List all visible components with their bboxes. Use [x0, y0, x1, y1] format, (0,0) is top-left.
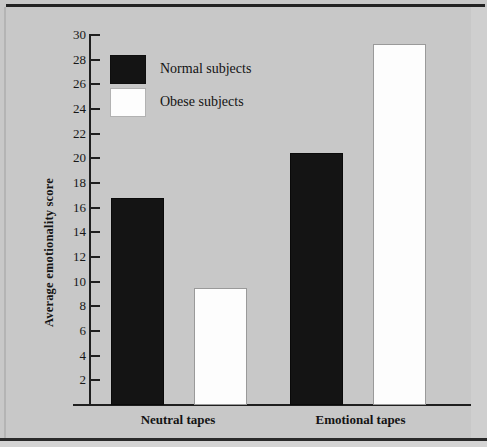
y-axis-tick: [91, 108, 100, 110]
y-axis-tick-label-text: 12: [64, 250, 86, 263]
y-axis-tick-label: 30: [60, 28, 86, 41]
y-axis-tick-label: 20: [60, 151, 86, 164]
y-axis-tick-label-text: 20: [64, 151, 86, 164]
bar-neutral-tapes-obese-subjects: [194, 288, 247, 405]
y-axis-tick: [91, 133, 100, 135]
y-axis-tick-label-text: 4: [64, 349, 86, 362]
y-axis-tick: [91, 256, 100, 258]
y-axis-tick-label: 10: [60, 275, 86, 288]
bar-chart: 24681012141618202224262830 Average emoti…: [0, 0, 487, 447]
y-axis-tick: [91, 157, 100, 159]
y-axis-tick-label-text: 10: [64, 275, 86, 288]
y-axis-tick: [91, 355, 100, 357]
legend-label-obese: Obese subjects: [160, 94, 244, 110]
y-axis-tick-label-text: 8: [64, 299, 86, 312]
chart-page: 24681012141618202224262830 Average emoti…: [0, 0, 487, 447]
y-axis-tick: [91, 231, 100, 233]
y-axis-tick: [91, 330, 100, 332]
y-axis-tick-label: 16: [60, 201, 86, 214]
y-axis-tick-label-text: 22: [64, 127, 86, 140]
y-axis-tick-label-text: 2: [64, 373, 86, 386]
y-axis-tick-label: 14: [60, 225, 86, 238]
y-axis-tick-label-text: 6: [64, 324, 86, 337]
y-axis-line: [89, 34, 91, 406]
y-axis-tick: [91, 83, 100, 85]
y-axis-tick-label: 12: [60, 250, 86, 263]
y-axis-tick: [91, 305, 100, 307]
y-axis-tick-label: 18: [60, 176, 86, 189]
y-axis-tick-label-text: 24: [64, 102, 86, 115]
y-axis-tick-label: 24: [60, 102, 86, 115]
y-axis-tick-label-text: 28: [64, 53, 86, 66]
bar-emotional-tapes-obese-subjects: [373, 44, 426, 405]
y-axis-tick: [91, 207, 100, 209]
y-axis-tick-label-text: 30: [64, 28, 86, 41]
y-axis-tick: [91, 59, 100, 61]
y-axis-tick-label-text: 18: [64, 176, 86, 189]
y-axis-tick-label: 2: [60, 373, 86, 386]
y-axis-tick-label-text: 14: [64, 225, 86, 238]
y-axis-tick-label: 8: [60, 299, 86, 312]
legend-label-normal: Normal subjects: [160, 61, 251, 77]
y-axis-tick-label-text: 16: [64, 201, 86, 214]
legend-swatch-normal-icon: [110, 55, 146, 84]
y-axis-tick: [91, 182, 100, 184]
y-axis-tick-label-text: 26: [64, 77, 86, 90]
category-label-neutral-tapes: Neutral tapes: [108, 412, 248, 428]
category-label-emotional-tapes: Emotional tapes: [288, 412, 433, 428]
bar-neutral-tapes-normal-subjects: [111, 198, 164, 405]
y-axis-tick: [91, 379, 100, 381]
legend-swatch-obese-icon: [110, 88, 146, 117]
y-axis-tick-label: 6: [60, 324, 86, 337]
y-axis-tick-label: 28: [60, 53, 86, 66]
y-axis-tick: [91, 281, 100, 283]
y-axis-tick-label: 4: [60, 349, 86, 362]
y-axis-tick-label: 26: [60, 77, 86, 90]
bar-emotional-tapes-normal-subjects: [290, 153, 343, 405]
y-axis-tick-label: 22: [60, 127, 86, 140]
y-axis-title: Average emotionality score: [42, 158, 57, 348]
y-axis-tick: [91, 34, 100, 36]
